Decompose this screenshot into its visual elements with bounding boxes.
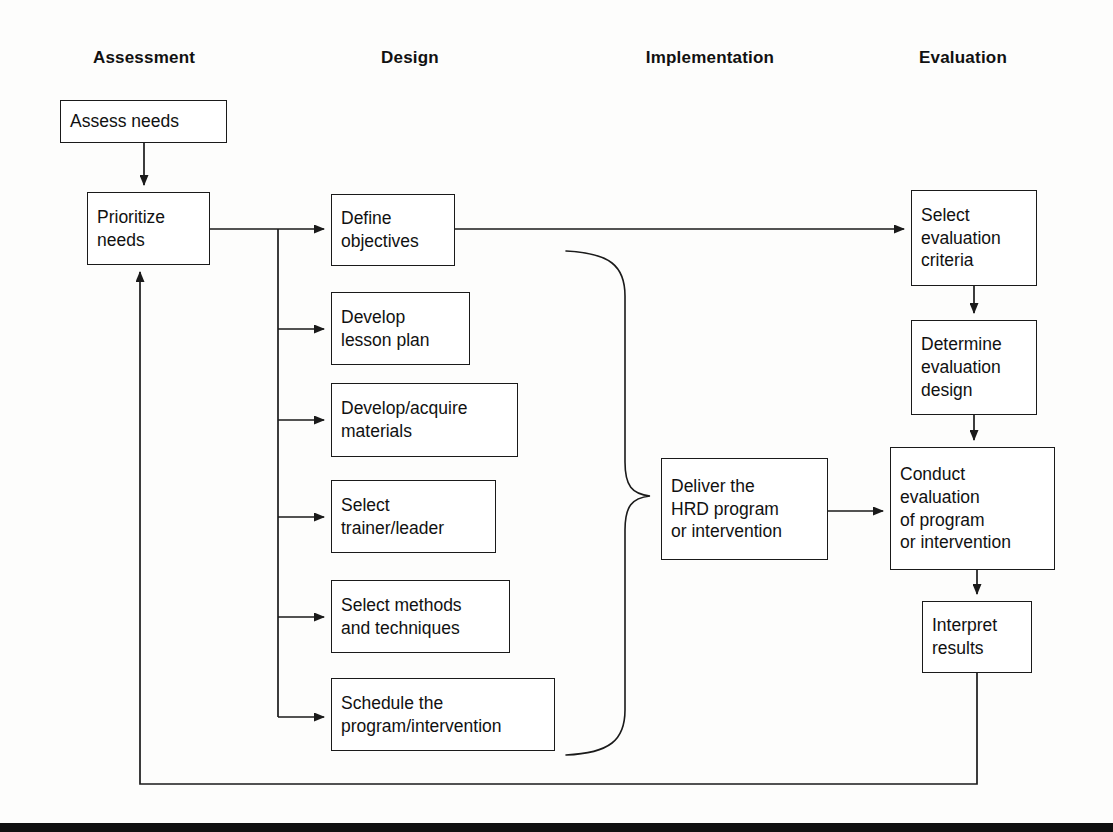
node-prioritize-needs-line-1: Prioritize (97, 206, 209, 229)
node-prioritize-needs[interactable]: Prioritize needs (87, 192, 210, 265)
node-select-trainer-leader-line-1: Select (341, 494, 495, 517)
node-prioritize-needs-line-2: needs (97, 229, 209, 252)
node-conduct-evaluation-line-3: of program (900, 509, 1054, 532)
node-conduct-evaluation-line-2: evaluation (900, 486, 1054, 509)
node-select-evaluation-criteria-line-2: evaluation (921, 227, 1036, 250)
node-determine-evaluation-design-line-1: Determine (921, 333, 1036, 356)
connector-feedback-loop (140, 272, 977, 784)
node-select-methods-techniques-line-2: and techniques (341, 617, 509, 640)
node-deliver-hrd-program-line-2: HRD program (671, 498, 827, 521)
node-interpret-results-line-1: Interpret (932, 614, 1031, 637)
node-select-evaluation-criteria-line-1: Select (921, 204, 1036, 227)
node-develop-lesson-plan-line-2: lesson plan (341, 329, 469, 352)
node-select-evaluation-criteria-line-3: criteria (921, 249, 1036, 272)
node-determine-evaluation-design[interactable]: Determine evaluation design (911, 320, 1037, 415)
node-define-objectives[interactable]: Define objectives (331, 194, 455, 266)
footer-rule (0, 823, 1113, 832)
node-interpret-results-line-2: results (932, 637, 1031, 660)
node-deliver-hrd-program[interactable]: Deliver the HRD program or intervention (661, 458, 828, 560)
node-interpret-results[interactable]: Interpret results (922, 601, 1032, 673)
phase-header-assessment: Assessment (93, 48, 195, 68)
node-conduct-evaluation-line-4: or intervention (900, 531, 1054, 554)
node-define-objectives-line-1: Define (341, 207, 454, 230)
phase-header-evaluation: Evaluation (919, 48, 1007, 68)
node-develop-acquire-materials-line-2: materials (341, 420, 517, 443)
flowchart-canvas: Assessment Design Implementation Evaluat… (0, 0, 1113, 832)
node-determine-evaluation-design-line-2: evaluation (921, 356, 1036, 379)
node-select-methods-techniques-line-1: Select methods (341, 594, 509, 617)
node-deliver-hrd-program-line-3: or intervention (671, 520, 827, 543)
node-develop-acquire-materials[interactable]: Develop/acquire materials (331, 383, 518, 457)
node-select-trainer-leader[interactable]: Select trainer/leader (331, 480, 496, 553)
node-schedule-program-line-2: program/intervention (341, 715, 554, 738)
node-select-trainer-leader-line-2: trainer/leader (341, 517, 495, 540)
node-conduct-evaluation-line-1: Conduct (900, 463, 1054, 486)
node-conduct-evaluation[interactable]: Conduct evaluation of program or interve… (890, 447, 1055, 570)
node-determine-evaluation-design-line-3: design (921, 379, 1036, 402)
node-assess-needs[interactable]: Assess needs (60, 100, 227, 143)
phase-header-design: Design (381, 48, 439, 68)
node-deliver-hrd-program-line-1: Deliver the (671, 475, 827, 498)
connector-design-brace (566, 251, 650, 755)
node-define-objectives-line-2: objectives (341, 230, 454, 253)
node-assess-needs-line-1: Assess needs (70, 110, 226, 133)
node-schedule-program-line-1: Schedule the (341, 692, 554, 715)
node-develop-lesson-plan[interactable]: Develop lesson plan (331, 292, 470, 365)
node-develop-acquire-materials-line-1: Develop/acquire (341, 397, 517, 420)
node-select-evaluation-criteria[interactable]: Select evaluation criteria (911, 190, 1037, 286)
node-develop-lesson-plan-line-1: Develop (341, 306, 469, 329)
node-schedule-program[interactable]: Schedule the program/intervention (331, 678, 555, 751)
node-select-methods-techniques[interactable]: Select methods and techniques (331, 580, 510, 653)
phase-header-implementation: Implementation (646, 48, 774, 68)
